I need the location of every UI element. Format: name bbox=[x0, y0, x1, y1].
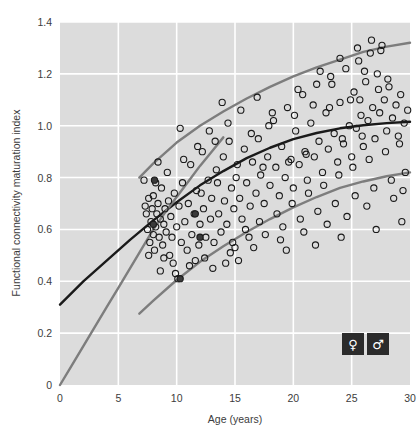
x-tick-label: 5 bbox=[115, 392, 121, 404]
x-tick-label: 10 bbox=[171, 392, 183, 404]
scatter-point-filled bbox=[151, 177, 157, 183]
y-tick-label: 1.2 bbox=[37, 68, 52, 80]
scatter-point-filled bbox=[192, 211, 198, 217]
y-tick-label: 1.0 bbox=[37, 120, 52, 132]
scatter-point-filled bbox=[177, 276, 183, 282]
male-icon: ♂ bbox=[372, 337, 384, 352]
y-tick-label: 0.6 bbox=[37, 223, 52, 235]
y-axis-label: Functional connectivity maturation index bbox=[10, 109, 22, 297]
scatter-point-filled bbox=[150, 221, 156, 227]
x-tick-label: 20 bbox=[287, 392, 299, 404]
x-tick-label: 25 bbox=[346, 392, 358, 404]
y-tick-label: 0 bbox=[46, 379, 52, 391]
x-tick-label: 15 bbox=[229, 392, 241, 404]
y-tick-label: 0.4 bbox=[37, 275, 52, 287]
scatter-point-filled bbox=[197, 234, 203, 240]
x-tick-label: 0 bbox=[57, 392, 63, 404]
y-tick-label: 1.4 bbox=[37, 16, 52, 28]
y-tick-label: 0.8 bbox=[37, 172, 52, 184]
x-axis-label: Age (years) bbox=[208, 413, 262, 425]
female-icon: ♀ bbox=[348, 337, 358, 352]
x-tick-label: 30 bbox=[404, 392, 416, 404]
y-tick-label: 0.2 bbox=[37, 327, 52, 339]
scatter-chart: 00.20.40.60.81.01.21.4 051015202530 Func… bbox=[0, 0, 418, 434]
